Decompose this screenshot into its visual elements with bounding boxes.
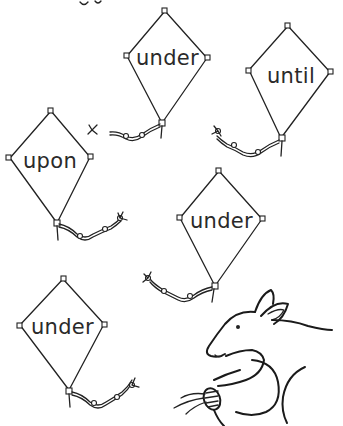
- worksheet-page: under until upon under under: [0, 0, 343, 426]
- kite-3-word: upon: [23, 149, 77, 173]
- kite-2-shape: [212, 23, 333, 157]
- kite-1-shape: [88, 8, 210, 141]
- kite-4-shape: [143, 168, 265, 302]
- kite-1-word: under: [136, 46, 199, 70]
- kite-5-word: under: [31, 315, 94, 339]
- kite-2-word: until: [267, 64, 315, 88]
- kite-3-shape: [6, 108, 127, 240]
- cropped-header-fragment: [80, 1, 101, 5]
- kangaroo-illustration: [174, 290, 332, 426]
- kite-5-shape: [17, 276, 139, 408]
- kite-4-word: under: [190, 209, 253, 233]
